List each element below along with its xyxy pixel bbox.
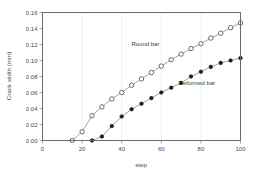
data-point — [199, 42, 203, 46]
data-point — [228, 26, 232, 30]
data-point — [90, 114, 94, 118]
chart-figure: 020406080100 0.000.020.040.060.080.100.1… — [0, 0, 257, 173]
y-tick-label: 0.14 — [26, 26, 38, 32]
data-point — [100, 135, 104, 139]
data-point — [179, 52, 183, 56]
data-point — [110, 97, 114, 101]
y-tick-label: 0.12 — [26, 42, 38, 48]
data-point — [199, 70, 203, 74]
crack-width-line-chart: 020406080100 0.000.020.040.060.080.100.1… — [0, 0, 257, 173]
x-axis-title: step — [135, 161, 147, 168]
data-point — [110, 124, 114, 128]
data-point — [139, 77, 143, 81]
y-axis-title: Crack width (mm) — [5, 52, 12, 100]
x-tick-label: 100 — [235, 146, 246, 152]
data-point — [169, 58, 173, 62]
data-point — [150, 96, 154, 100]
y-tick-label: 0.04 — [26, 106, 38, 112]
data-point — [140, 102, 144, 106]
x-tick-label: 80 — [198, 146, 205, 152]
annotation-label-2: Deformed bar — [179, 80, 216, 86]
x-tick-label: 20 — [79, 146, 86, 152]
data-point — [129, 83, 133, 87]
data-point — [219, 61, 223, 65]
data-point — [159, 64, 163, 68]
y-tick-label: 0.16 — [26, 10, 38, 16]
data-point — [160, 91, 164, 95]
data-point — [120, 90, 124, 94]
x-tick-label: 60 — [158, 146, 165, 152]
y-tick-label: 0.08 — [26, 74, 38, 80]
data-point — [169, 86, 173, 90]
data-point — [229, 59, 233, 63]
annotation-label-1: Round bar — [131, 41, 159, 47]
chart-background — [0, 0, 257, 173]
data-point — [189, 75, 193, 79]
y-tick-label: 0.00 — [26, 138, 38, 144]
y-tick-label: 0.10 — [26, 58, 38, 64]
y-tick-label: 0.02 — [26, 122, 38, 128]
data-point — [219, 31, 223, 35]
data-point — [120, 115, 124, 119]
data-point — [149, 70, 153, 74]
data-point — [189, 46, 193, 50]
data-point — [80, 130, 84, 134]
x-tick-label: 40 — [118, 146, 125, 152]
data-point — [100, 105, 104, 109]
y-tick-label: 0.06 — [26, 90, 38, 96]
data-point — [209, 36, 213, 40]
data-point — [209, 65, 213, 69]
data-point — [130, 108, 134, 112]
